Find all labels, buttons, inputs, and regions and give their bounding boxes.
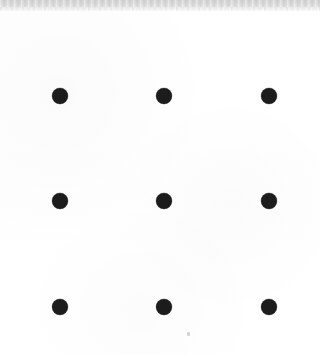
dot-r3c2: [156, 299, 172, 315]
dot-r2c3: [261, 193, 277, 209]
dot-r1c3: [261, 88, 277, 104]
figure-canvas: Nine Dots Grid Three-by-three grid of so…: [0, 0, 320, 355]
scan-speck: [187, 332, 190, 336]
dot-r3c3: [261, 299, 277, 315]
dot-r3c1: [52, 299, 68, 315]
dot-grid: [0, 0, 320, 355]
dot-r1c2: [156, 88, 172, 104]
dot-r2c2: [156, 193, 172, 209]
dot-r1c1: [52, 88, 68, 104]
dot-r2c1: [52, 193, 68, 209]
